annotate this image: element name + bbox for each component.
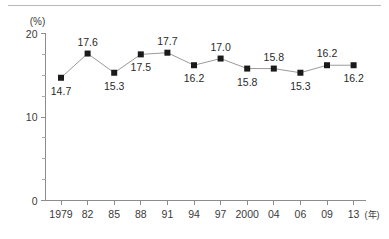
x-tick-label: 85 (108, 208, 120, 220)
data-value-label: 16.2 (184, 72, 205, 84)
data-point-marker[interactable] (164, 50, 170, 56)
series-polyline (61, 53, 354, 78)
data-point-marker[interactable] (85, 51, 91, 57)
data-value-label: 17.5 (131, 61, 152, 73)
x-tick-label: 91 (162, 208, 174, 220)
x-axis-ticks (61, 201, 354, 205)
x-tick-label: 1979 (49, 208, 73, 220)
y-axis-tick-labels: 01020 (26, 28, 38, 207)
x-tick-label: 09 (321, 208, 333, 220)
data-value-label: 15.3 (104, 80, 125, 92)
data-point-marker[interactable] (324, 62, 330, 68)
y-tick-label: 10 (26, 111, 38, 123)
data-point-marker[interactable] (244, 66, 250, 72)
chart-container: 01020 1979828588919497200004060913(年) 14… (0, 0, 389, 239)
data-value-labels: 14.717.615.317.517.716.217.015.815.815.3… (51, 35, 364, 97)
data-point-marker[interactable] (297, 70, 303, 76)
x-tick-label: 82 (82, 208, 94, 220)
data-point-marker[interactable] (351, 62, 357, 68)
data-value-label: 15.8 (264, 51, 285, 63)
data-point-marker[interactable] (138, 51, 144, 57)
x-axis-unit-label: (年) (365, 209, 380, 220)
x-tick-label: 88 (135, 208, 147, 220)
y-tick-label: 0 (32, 195, 38, 207)
y-major-ticks (41, 34, 46, 201)
x-tick-label: 13 (348, 208, 360, 220)
data-point-marker[interactable] (218, 56, 224, 62)
data-value-label: 14.7 (51, 85, 72, 97)
data-series-line (61, 53, 354, 78)
x-axis-tick-labels: 1979828588919497200004060913(年) (49, 208, 379, 220)
line-chart-plot: 01020 1979828588919497200004060913(年) 14… (0, 0, 389, 239)
data-value-label: 16.2 (317, 47, 338, 59)
data-value-label: 15.8 (237, 76, 258, 88)
data-point-markers (58, 50, 357, 81)
data-point-marker[interactable] (271, 66, 277, 72)
x-tick-label: 94 (188, 208, 200, 220)
data-value-label: 16.2 (343, 72, 364, 84)
y-axis-unit-label: (%) (30, 16, 46, 27)
data-point-marker[interactable] (191, 62, 197, 68)
data-value-label: 17.7 (157, 35, 178, 47)
data-point-marker[interactable] (58, 75, 64, 81)
data-value-label: 17.6 (77, 36, 98, 48)
x-tick-label: 2000 (236, 208, 260, 220)
y-tick-label: 20 (26, 28, 38, 40)
x-tick-label: 04 (268, 208, 280, 220)
x-tick-label: 06 (295, 208, 307, 220)
data-value-label: 15.3 (290, 80, 311, 92)
x-tick-label: 97 (215, 208, 227, 220)
y-axis-unit-label: (%) (30, 16, 46, 27)
data-point-marker[interactable] (111, 70, 117, 76)
data-value-label: 17.0 (210, 41, 231, 53)
